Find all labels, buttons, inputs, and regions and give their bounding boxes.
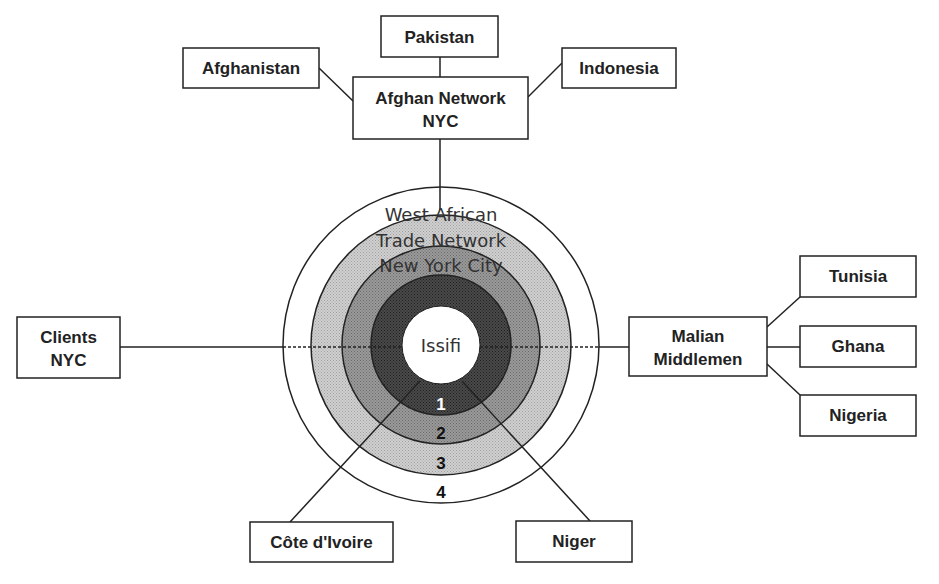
node-pakistan-label: Pakistan xyxy=(405,28,475,47)
node-indonesia: Indonesia xyxy=(562,48,676,88)
node-afghanistan-label: Afghanistan xyxy=(202,59,300,78)
node-afghanistan: Afghanistan xyxy=(183,48,319,88)
node-niger: Niger xyxy=(516,521,632,562)
ring-number-3: 3 xyxy=(436,454,445,473)
node-niger-label: Niger xyxy=(552,532,596,551)
node-nigeria-label: Nigeria xyxy=(829,406,887,425)
ring-number-4: 4 xyxy=(436,483,446,502)
ring-title: West African Trade Network New York City xyxy=(375,204,507,276)
node-tunisia: Tunisia xyxy=(800,256,916,297)
line-malian-tunisia xyxy=(767,297,800,327)
node-indonesia-label: Indonesia xyxy=(579,59,659,78)
node-malian-line-2: Middlemen xyxy=(654,350,743,369)
node-ghana-label: Ghana xyxy=(832,337,885,356)
node-malian-line-1: Malian xyxy=(672,327,725,346)
node-ghana: Ghana xyxy=(800,326,916,367)
node-nigeria: Nigeria xyxy=(800,395,916,436)
ring-title-line-1: West African xyxy=(385,204,498,225)
node-malian-middlemen: Malian Middlemen xyxy=(629,317,767,376)
ring-number-1: 1 xyxy=(436,395,445,414)
node-afghan-network-line-2: NYC xyxy=(423,112,459,131)
node-cote-divoire: Côte d'Ivoire xyxy=(250,522,393,562)
ring-number-2: 2 xyxy=(436,424,445,443)
ring-title-line-3: New York City xyxy=(379,255,503,276)
node-pakistan: Pakistan xyxy=(381,16,498,57)
line-malian-nigeria xyxy=(767,364,800,395)
node-clients-line-2: NYC xyxy=(51,351,87,370)
line-indonesia-afghan xyxy=(528,63,562,97)
node-cote-divoire-label: Côte d'Ivoire xyxy=(270,533,372,552)
ring-title-line-2: Trade Network xyxy=(375,230,507,251)
center-label: Issifi xyxy=(421,335,461,356)
node-tunisia-label: Tunisia xyxy=(829,267,888,286)
node-clients: Clients NYC xyxy=(17,317,120,378)
node-clients-line-1: Clients xyxy=(40,328,97,347)
node-afghan-network: Afghan Network NYC xyxy=(353,77,528,139)
node-afghan-network-line-1: Afghan Network xyxy=(375,89,506,108)
line-afghanistan-afghan xyxy=(319,68,353,101)
network-diagram: West African Trade Network New York City… xyxy=(0,0,939,584)
